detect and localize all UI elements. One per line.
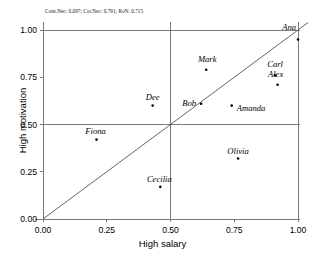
x-tick-label: 0.75 bbox=[226, 225, 243, 235]
data-point-label: Dee bbox=[146, 92, 160, 102]
data-point-label: Mark bbox=[198, 54, 217, 64]
axes bbox=[35, 22, 300, 219]
x-tick-label: 0.50 bbox=[162, 225, 179, 235]
y-tick-label: 0.00 bbox=[7, 214, 37, 224]
x-tick-label: 1.00 bbox=[290, 225, 307, 235]
diagonal-reference-line bbox=[43, 22, 308, 219]
x-tick-label: 0.25 bbox=[98, 225, 115, 235]
data-point-marker bbox=[151, 104, 154, 107]
gridlines bbox=[43, 22, 300, 219]
data-point-marker bbox=[200, 102, 203, 105]
plot-canvas bbox=[0, 0, 325, 258]
data-point-marker bbox=[230, 104, 233, 107]
data-point-label: Fiona bbox=[85, 126, 106, 136]
data-point-label: Alex bbox=[268, 69, 283, 79]
y-tick-label: 1.00 bbox=[7, 25, 37, 35]
scatter-plot-figure: Cons.Nec: 0.097; Cor.Nec: 0.791; RoN: 0.… bbox=[0, 0, 325, 258]
data-point-label: Ana bbox=[282, 22, 296, 32]
data-point-label: Bob bbox=[182, 98, 196, 108]
data-point-label: Olivia bbox=[227, 146, 248, 156]
x-tick-label: 0.00 bbox=[35, 225, 52, 235]
data-point-marker bbox=[205, 68, 208, 71]
data-point-label: Amanda bbox=[237, 103, 266, 113]
data-point-marker bbox=[95, 138, 98, 141]
y-axis-title: High motivation bbox=[17, 56, 28, 186]
data-point-label: Cecilia bbox=[147, 174, 172, 184]
data-point-marker bbox=[276, 84, 279, 87]
data-point-marker bbox=[237, 157, 240, 160]
data-point-marker bbox=[297, 38, 300, 41]
data-point-marker bbox=[159, 186, 162, 189]
x-axis-title: High salary bbox=[0, 238, 325, 249]
